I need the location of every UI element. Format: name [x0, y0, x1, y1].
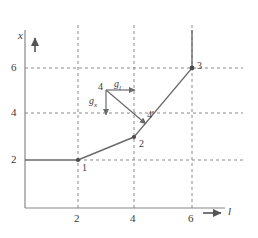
grid-lines — [25, 25, 243, 208]
y-tick-label-6: 6 — [11, 62, 17, 73]
axes — [25, 30, 225, 213]
gradient-vectors — [106, 90, 146, 124]
y-tick-label-4: 4 — [11, 107, 17, 118]
y-axis-label: x — [18, 30, 23, 41]
figure-container: x l 6 4 2 2 4 6 1 2 3 4 4' gl gx — [0, 0, 258, 238]
x-tick-label-2: 2 — [74, 213, 80, 224]
x-tick-label-4: 4 — [130, 213, 136, 224]
point-label-1: 1 — [82, 163, 87, 173]
point-label-2: 2 — [139, 139, 144, 149]
segment-2-to-3 — [134, 68, 192, 137]
g-x-subscript: x — [94, 101, 97, 109]
marker-point-2 — [132, 135, 136, 139]
path-polyline — [25, 30, 192, 160]
y-tick-label-2: 2 — [11, 154, 17, 165]
vector-label-g-x: gx — [89, 96, 97, 109]
marker-point-3 — [190, 66, 195, 71]
vector-label-g-l: gl — [114, 79, 121, 92]
g-l-subscript: l — [119, 84, 121, 92]
marker-point-1 — [76, 158, 80, 162]
point-label-3: 3 — [197, 61, 202, 71]
point-label-4: 4 — [98, 82, 103, 92]
segment-1-to-2 — [78, 137, 134, 160]
x-axis-label: l — [228, 206, 231, 217]
point-markers — [76, 66, 195, 162]
point-label-4-prime: 4' — [147, 110, 154, 120]
vector-g-resultant — [106, 90, 146, 124]
plot-canvas — [0, 0, 258, 238]
x-tick-label-6: 6 — [188, 213, 194, 224]
